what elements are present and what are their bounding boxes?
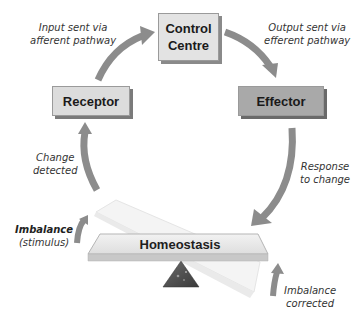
arrow-imbalance-corrected bbox=[271, 263, 284, 296]
output-label-line2: efferent pathway bbox=[264, 34, 350, 47]
response-to-change-label: Response to change bbox=[300, 160, 350, 186]
arrow-effector-to-homeostasis bbox=[251, 128, 292, 226]
control-centre-box: Control Centre bbox=[158, 13, 219, 61]
output-label-line1: Output sent via bbox=[264, 21, 350, 34]
input-label-line2: afferent pathway bbox=[30, 34, 116, 47]
receptor-box: Receptor bbox=[52, 86, 130, 116]
control-centre-line2: Centre bbox=[165, 37, 211, 54]
effector-box: Effector bbox=[238, 86, 324, 116]
imbalance-stimulus-label: Imbalance (stimulus) bbox=[15, 223, 73, 249]
change-label-line2: detected bbox=[33, 164, 78, 177]
imbalance-label-line1: Imbalance bbox=[15, 223, 73, 236]
homeostasis-label: Homeostasis bbox=[130, 237, 230, 252]
receptor-label: Receptor bbox=[63, 94, 119, 109]
change-label-line1: Change bbox=[33, 151, 78, 164]
corrected-label-line2: corrected bbox=[284, 297, 336, 310]
input-label-line1: Input sent via bbox=[30, 21, 116, 34]
imbalance-corrected-label: Imbalance corrected bbox=[284, 284, 336, 310]
arrow-imbalance-stimulus bbox=[77, 215, 88, 243]
control-centre-line1: Control bbox=[165, 20, 211, 37]
input-afferent-label: Input sent via afferent pathway bbox=[30, 21, 116, 47]
output-efferent-label: Output sent via efferent pathway bbox=[264, 21, 350, 47]
arrow-change-detected bbox=[78, 122, 97, 190]
effector-label: Effector bbox=[256, 94, 305, 109]
change-detected-label: Change detected bbox=[33, 151, 78, 177]
corrected-label-line1: Imbalance bbox=[284, 284, 336, 297]
response-label-line1: Response bbox=[300, 160, 350, 173]
imbalance-label-line2: (stimulus) bbox=[15, 236, 73, 249]
response-label-line2: to change bbox=[300, 173, 350, 186]
